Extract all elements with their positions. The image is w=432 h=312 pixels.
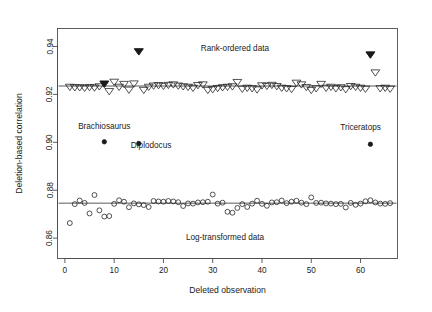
open-circle-marker: [136, 202, 141, 207]
x-axis-tick-label: 0: [63, 266, 68, 275]
filled-circle-marker: [368, 142, 372, 146]
open-circle-marker: [195, 200, 200, 205]
open-circle-marker: [230, 210, 235, 215]
open-circle-marker: [117, 198, 122, 203]
x-axis-title: Deleted observation: [189, 285, 266, 295]
chart-figure: 0102030405060Deleted observation0.860.88…: [0, 0, 432, 312]
x-axis-tick-label: 30: [208, 266, 218, 275]
y-axis-tick-label: 0.88: [46, 182, 55, 198]
open-circle-marker: [200, 200, 205, 205]
log-transformed-data-label: Log-transformed data: [186, 233, 265, 242]
open-circle-marker: [269, 200, 274, 205]
open-circle-marker: [126, 205, 131, 210]
y-axis-tick-label: 0.90: [46, 134, 55, 150]
open-circle-marker: [176, 200, 181, 205]
open-circle-marker: [368, 198, 373, 203]
open-circle-marker: [107, 214, 112, 219]
brachiosaurus-label: Brachiosaurus: [78, 122, 130, 131]
open-circle-marker: [274, 200, 279, 205]
filled-triangle-marker: [366, 52, 375, 58]
triceratops-label: Triceratops: [340, 123, 381, 132]
open-circle-marker: [181, 204, 186, 209]
deletion-correlation-scatter-plot: 0102030405060Deleted observation0.860.88…: [0, 0, 432, 312]
open-triangle-marker: [105, 89, 114, 95]
open-circle-marker: [67, 221, 72, 226]
y-axis-tick-label: 0.94: [46, 38, 55, 54]
filled-circle-marker: [102, 140, 106, 144]
open-circle-marker: [235, 205, 240, 210]
open-triangle-marker: [233, 79, 242, 85]
filled-triangle-marker: [134, 49, 143, 55]
plot-box-border: [58, 29, 398, 259]
open-circle-marker: [383, 201, 388, 206]
open-circle-marker: [260, 201, 265, 206]
open-triangle-marker: [297, 82, 306, 88]
open-triangle-marker: [65, 84, 74, 90]
x-axis-tick-label: 20: [159, 266, 169, 275]
open-circle-marker: [97, 208, 102, 213]
open-triangle-marker: [125, 87, 134, 93]
diplodocus-label: Diplodocus: [131, 141, 172, 150]
y-axis-tick-label: 0.86: [46, 230, 55, 246]
open-circle-marker: [225, 209, 230, 214]
open-circle-marker: [72, 202, 77, 207]
x-axis-tick-label: 40: [257, 266, 267, 275]
rank-ordered-data-label: Rank-ordered data: [201, 44, 270, 53]
open-circle-marker: [255, 198, 260, 203]
open-circle-marker: [338, 201, 343, 206]
open-circle-marker: [112, 201, 117, 206]
y-axis-title: Deletion-based correlation: [14, 93, 24, 194]
open-triangle-marker: [253, 87, 262, 93]
open-circle-marker: [87, 211, 92, 216]
open-circle-marker: [146, 205, 151, 210]
open-circle-marker: [77, 198, 82, 203]
open-circle-marker: [279, 198, 284, 203]
open-triangle-marker: [371, 70, 380, 76]
y-axis-tick-label: 0.92: [46, 86, 55, 102]
open-circle-marker: [373, 200, 378, 205]
open-triangle-marker: [317, 81, 326, 87]
open-circle-marker: [264, 203, 269, 208]
open-circle-marker: [102, 214, 107, 219]
open-circle-marker: [309, 195, 314, 200]
open-circle-marker: [210, 192, 215, 197]
open-circle-marker: [240, 202, 245, 207]
open-circle-marker: [333, 202, 338, 207]
open-circle-marker: [304, 202, 309, 207]
open-circle-marker: [343, 205, 348, 210]
x-axis-tick-label: 10: [110, 266, 120, 275]
open-circle-marker: [245, 205, 250, 210]
open-circle-marker: [92, 193, 97, 198]
x-axis-tick-label: 60: [356, 266, 366, 275]
open-triangle-marker: [228, 84, 237, 90]
open-circle-marker: [294, 198, 299, 203]
x-axis-tick-label: 50: [307, 266, 317, 275]
